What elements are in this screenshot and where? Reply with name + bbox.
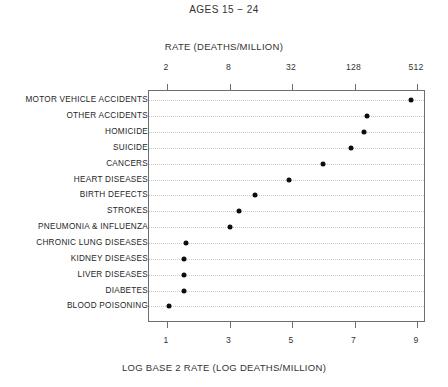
- data-point: [349, 145, 354, 150]
- plot-area: [148, 90, 425, 322]
- category-label: PNEUMONIA & INFLUENZA: [2, 222, 148, 231]
- top-axis-tick-label: 8: [226, 62, 231, 72]
- bottom-axis-tick-label: 1: [164, 335, 169, 345]
- top-axis-tick: [167, 84, 168, 91]
- gridline: [149, 148, 424, 149]
- gridline: [149, 291, 424, 292]
- bottom-axis-tick-label: 7: [351, 335, 356, 345]
- category-label: LIVER DISEASES: [2, 269, 148, 278]
- data-point: [252, 193, 257, 198]
- top-axis-tick-label: 2: [164, 62, 169, 72]
- top-axis-label: RATE (DEATHS/MILLION): [0, 41, 448, 52]
- category-label: MOTOR VEHICLE ACCIDENTS: [2, 95, 148, 104]
- category-label: KIDNEY DISEASES: [2, 253, 148, 262]
- bottom-axis-tick: [417, 321, 418, 328]
- top-axis-tick: [292, 84, 293, 91]
- gridline: [149, 259, 424, 260]
- chart-title: AGES 15 − 24: [0, 4, 448, 15]
- data-point: [227, 225, 232, 230]
- category-label: STROKES: [2, 206, 148, 215]
- category-label: CANCERS: [2, 158, 148, 167]
- category-label: OTHER ACCIDENTS: [2, 111, 148, 120]
- gridline: [149, 306, 424, 307]
- gridline: [149, 100, 424, 101]
- data-point: [408, 98, 413, 103]
- gridline: [149, 211, 424, 212]
- data-point: [321, 161, 326, 166]
- category-label: HEART DISEASES: [2, 174, 148, 183]
- data-point: [365, 114, 370, 119]
- category-label: BLOOD POISONING: [2, 301, 148, 310]
- category-label: HOMICIDE: [2, 126, 148, 135]
- top-axis-tick-label: 512: [409, 62, 424, 72]
- category-labels: MOTOR VEHICLE ACCIDENTSOTHER ACCIDENTSHO…: [0, 90, 148, 322]
- gridline: [149, 116, 424, 117]
- bottom-axis-tick: [167, 321, 168, 328]
- data-point: [361, 129, 366, 134]
- bottom-axis-label: LOG BASE 2 RATE (LOG DEATHS/MILLION): [0, 362, 448, 373]
- bottom-axis-tick-label: 5: [289, 335, 294, 345]
- gridline: [149, 243, 424, 244]
- category-label: DIABETES: [2, 285, 148, 294]
- category-label: BIRTH DEFECTS: [2, 190, 148, 199]
- data-point: [182, 288, 187, 293]
- chart-figure: AGES 15 − 24 RATE (DEATHS/MILLION) 28321…: [0, 0, 448, 387]
- category-label: SUICIDE: [2, 142, 148, 151]
- bottom-axis-tick-label: 9: [414, 335, 419, 345]
- gridline: [149, 164, 424, 165]
- category-label: CHRONIC LUNG DISEASES: [2, 238, 148, 247]
- data-point: [286, 177, 291, 182]
- top-axis-tick-label: 128: [346, 62, 361, 72]
- top-axis-tick: [417, 84, 418, 91]
- data-point: [182, 256, 187, 261]
- bottom-axis-tick: [230, 321, 231, 328]
- data-point: [182, 272, 187, 277]
- gridline: [149, 132, 424, 133]
- top-axis-tick: [355, 84, 356, 91]
- gridline: [149, 195, 424, 196]
- data-point: [236, 209, 241, 214]
- top-axis-tick: [230, 84, 231, 91]
- gridline: [149, 275, 424, 276]
- bottom-axis-tick: [292, 321, 293, 328]
- gridline: [149, 227, 424, 228]
- bottom-axis-tick: [355, 321, 356, 328]
- bottom-axis-tick-label: 3: [226, 335, 231, 345]
- data-point: [183, 241, 188, 246]
- top-axis-tick-label: 32: [286, 62, 296, 72]
- data-point: [166, 304, 171, 309]
